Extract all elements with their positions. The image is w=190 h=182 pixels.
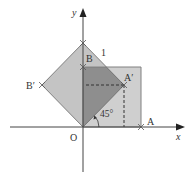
point-B-label: B bbox=[86, 53, 93, 64]
angle-label: 45° bbox=[100, 109, 114, 119]
x-axis-label: x bbox=[175, 131, 181, 142]
length-label: 1 bbox=[101, 47, 106, 58]
y-axis-arrow-icon bbox=[80, 8, 87, 17]
origin-label: O bbox=[70, 132, 77, 143]
point-A-label: A bbox=[147, 116, 155, 127]
point-B-prime-label: B′ bbox=[26, 80, 35, 91]
x-axis-arrow-icon bbox=[176, 124, 185, 131]
y-axis-label: y bbox=[71, 7, 77, 18]
coordinate-diagram: y x O 1 B B′ A′ A 45° bbox=[0, 0, 190, 182]
point-A-prime-label: A′ bbox=[124, 72, 133, 83]
